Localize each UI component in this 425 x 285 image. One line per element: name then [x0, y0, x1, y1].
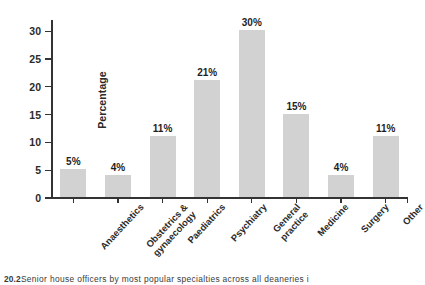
y-tick-mark	[45, 58, 51, 59]
y-tick-label: 20	[29, 81, 41, 93]
bar-value-label: 4%	[111, 162, 125, 173]
bar: 4%	[328, 175, 354, 197]
y-tick-mark	[45, 86, 51, 87]
y-tick: 10	[45, 142, 51, 143]
x-axis-label: Paediatrics	[185, 202, 227, 246]
bar: 4%	[105, 175, 131, 197]
x-axis-label: Anaesthetics	[99, 202, 146, 252]
x-axis-label: Surgery	[359, 202, 391, 235]
y-tick-label: 15	[29, 109, 41, 121]
x-label-line: Medicine	[315, 201, 350, 238]
y-tick-label: 25	[29, 53, 41, 65]
y-tick-mark	[45, 170, 51, 171]
x-axis-label: Psychiatry	[229, 202, 269, 244]
x-tick-mark	[251, 198, 252, 203]
bar-value-label: 4%	[334, 162, 348, 173]
x-label-line: Surgery	[359, 201, 391, 234]
x-tick-mark-end	[407, 198, 408, 203]
y-tick-mark	[45, 31, 51, 32]
bar: 5%	[60, 169, 86, 197]
figure-caption-text: Senior house officers by most popular sp…	[21, 274, 309, 284]
y-tick: 15	[45, 114, 51, 115]
y-tick: 5	[45, 170, 51, 171]
bar-value-label: 11%	[376, 123, 395, 134]
y-tick-label: 30	[29, 25, 41, 37]
y-tick-label: 5	[35, 164, 41, 176]
figure-caption: 20.2Senior house officers by most popula…	[4, 274, 420, 284]
y-tick: 20	[45, 86, 51, 87]
x-label-line: Psychiatry	[229, 201, 269, 243]
y-tick-mark	[45, 114, 51, 115]
y-tick-label: 0	[35, 192, 41, 204]
y-tick: 0	[45, 197, 51, 198]
x-axis-label: Obstetrics &gynaecology	[143, 202, 197, 258]
x-tick-mark	[385, 198, 386, 203]
y-tick: 25	[45, 58, 51, 59]
bar-value-label: 11%	[153, 123, 172, 134]
x-label-line: Anaesthetics	[98, 201, 146, 251]
x-tick-mark	[162, 198, 163, 203]
x-tick-mark	[73, 198, 74, 203]
bar: 21%	[194, 80, 220, 197]
bar: 11%	[150, 136, 176, 197]
x-axis-label: Other	[401, 202, 425, 227]
x-axis-line	[51, 197, 408, 199]
bar-value-label: 15%	[286, 101, 306, 112]
x-label-line: Other	[400, 201, 425, 227]
bar-value-label: 21%	[197, 67, 217, 78]
y-tick-mark	[45, 142, 51, 143]
bar-value-label: 5%	[66, 156, 80, 167]
x-axis-label: Medicine	[316, 202, 351, 239]
y-tick-mark	[45, 197, 51, 198]
y-tick-label: 10	[29, 136, 41, 148]
plot-area: 051015202530 5%4%11%21%30%15%4%11%	[51, 20, 408, 198]
figure-caption-number: 20.2	[4, 274, 21, 284]
y-tick: 30	[45, 31, 51, 32]
bar: 15%	[283, 114, 309, 197]
x-axis-label: Generalpractice	[270, 202, 310, 243]
x-tick-mark	[207, 198, 208, 203]
bar-value-label: 30%	[242, 17, 262, 28]
x-tick-mark	[117, 198, 118, 203]
bar: 11%	[373, 136, 399, 197]
bar: 30%	[239, 30, 265, 197]
y-axis-line	[51, 20, 53, 198]
